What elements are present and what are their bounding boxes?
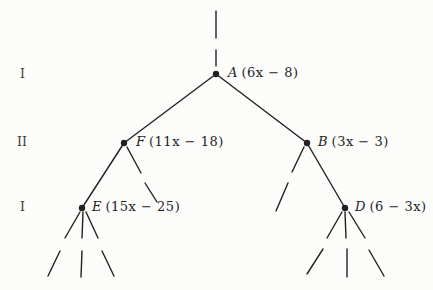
edge-B-truncated-lower <box>276 183 288 211</box>
edge-A-F <box>124 74 216 143</box>
node-E-expression: (15x − 25) <box>106 199 181 214</box>
edge-F-truncated-upper <box>127 147 141 173</box>
edge-D-right-upper <box>349 212 365 238</box>
edge-A-B <box>216 74 307 143</box>
node-D-name: D <box>355 199 365 214</box>
node-dot-F <box>121 140 127 146</box>
edge-D-left-upper <box>327 212 342 238</box>
tree-diagram-figure: I II I A(6x − 8) F(11x − 18) B(3x − 3) E… <box>0 0 433 290</box>
edge-B-truncated-upper <box>292 147 304 172</box>
node-label-F: F(11x − 18) <box>136 135 224 148</box>
edge-D-left-lower <box>307 249 323 274</box>
edge-E-mid-upper <box>82 212 83 238</box>
node-F-expression: (11x − 18) <box>149 134 224 149</box>
node-dot-D <box>342 205 348 211</box>
node-E-name: E <box>92 199 102 214</box>
node-dot-B <box>304 140 310 146</box>
edge-E-mid-lower <box>81 251 82 277</box>
edge-E-right-lower <box>102 251 114 276</box>
node-dot-E <box>79 205 85 211</box>
edge-D-right-lower <box>369 250 384 276</box>
node-label-B: B(3x − 3) <box>318 135 389 148</box>
node-label-D: D(6 − 3x) <box>355 200 427 213</box>
level-label-3: I <box>20 201 25 214</box>
edge-B-D <box>307 143 345 208</box>
node-F-name: F <box>136 134 145 149</box>
node-B-expression: (3x − 3) <box>332 134 389 149</box>
node-dot-A <box>213 71 219 77</box>
node-D-expression: (6 − 3x) <box>369 199 426 214</box>
edge-E-left-lower <box>48 251 60 276</box>
node-A-name: A <box>228 65 237 80</box>
node-label-A: A(6x − 8) <box>228 66 299 79</box>
node-A-expression: (6x − 8) <box>241 65 298 80</box>
node-label-E: E(15x − 25) <box>92 200 180 213</box>
edge-D-mid-upper <box>345 212 346 238</box>
edge-E-right-upper <box>86 212 98 238</box>
level-label-2: II <box>17 136 27 149</box>
node-B-name: B <box>318 134 328 149</box>
edge-E-left-upper <box>65 212 80 238</box>
level-label-1: I <box>20 68 25 81</box>
